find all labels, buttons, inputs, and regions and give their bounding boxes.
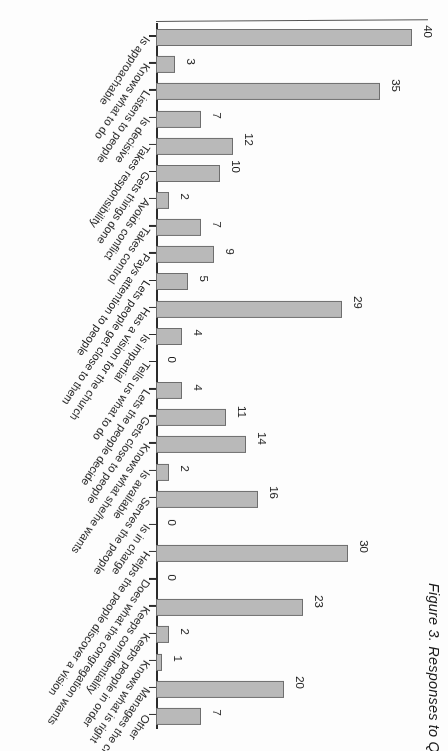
bar [156,626,169,643]
bar-value-label: 0 [166,337,178,363]
axis-tick [149,605,156,606]
bar-value-label: 35 [390,66,402,92]
bar [156,138,233,155]
axis-tick [149,470,156,471]
bar-row: 1Knows what is right [156,648,418,675]
bar [156,219,201,236]
axis-tick [149,144,156,145]
axis-tick [149,415,156,416]
figure-caption: Figure 3. Responses to Question 11. [426,583,442,751]
bar-value-label: 7 [211,690,223,716]
bar-value-label: 10 [230,147,242,173]
bar-value-label: 30 [358,528,370,554]
bar-row: 2Keeps people in order [156,620,418,647]
bar-value-label: 1 [172,636,184,662]
axis-tick [149,442,156,443]
bar-value-label: 0 [166,500,178,526]
bar-value-label: 12 [243,120,255,146]
bar-row: 2Is available [156,457,418,484]
axis-tick [149,714,156,715]
bar-value-label: 23 [313,582,325,608]
axis-tick [149,89,156,90]
axis-tick [149,578,156,579]
bar-value-label: 0 [166,555,178,581]
bar-value-label: 20 [294,663,306,689]
axis-tick [149,171,156,172]
axis-tick [149,280,156,281]
axis-tick [149,551,156,552]
bar-value-label: 2 [179,446,191,472]
bar-row: 7Is decisive [156,104,418,131]
bar-row: 7Other [156,702,418,729]
axis-tick [149,198,156,199]
bar-row: 12Takes responsibility [156,132,418,159]
axis-tick [149,660,156,661]
axis-tick [149,388,156,389]
axis-tick [149,62,156,63]
bar [156,409,226,426]
bar [156,111,201,128]
axis-tick [149,524,156,525]
bar [156,464,169,481]
bar-value-label: 9 [224,229,236,255]
bar-row: 20Manages the church effectively [156,675,418,702]
bar [156,382,182,399]
bar-value-label: 40 [422,12,434,38]
bar-row: 3Knows what to do [156,50,418,77]
bar-value-label: 2 [179,609,191,635]
bar-row: 23Keeps confidentiality [156,593,418,620]
bar-value-label: 16 [268,473,280,499]
bar [156,56,175,73]
bar [156,192,169,209]
bar [156,708,201,725]
axis-tick [149,334,156,335]
bar-row: 9Pays attention to people [156,240,418,267]
bar [156,83,380,100]
axis-tick [149,633,156,634]
axis-tick [149,307,156,308]
value-axis-baseline [156,19,428,22]
bar [156,436,246,453]
bar-row: 10Gets things done [156,159,418,186]
axis-tick [149,252,156,253]
bar [156,654,162,671]
rotated-figure-container: Figure 3. Responses to Question 11. 40Is… [0,0,448,751]
bar-chart-plot-area: 40Is approachable3Knows what to do35List… [156,23,418,729]
bar-value-label: 5 [198,256,210,282]
bar [156,545,348,562]
bar-row: 2Avoids conflict [156,186,418,213]
bar-value-label: 7 [211,202,223,228]
axis-tick [149,687,156,688]
axis-tick [149,225,156,226]
bar-row: 5Lets people get close to them [156,267,418,294]
axis-tick [149,361,156,362]
axis-tick [149,35,156,36]
bar [156,273,188,290]
bar [156,301,342,318]
bar-value-label: 2 [179,175,191,201]
bar-row: 0Does what the congregation wants [156,566,418,593]
bar-value-label: 29 [352,283,364,309]
bar-row: 16Serves the people [156,485,418,512]
bar-row: 4Is impartial [156,322,418,349]
bar-value-label: 11 [236,392,248,418]
bar-value-label: 3 [185,39,197,65]
bar-value-label: 14 [256,419,268,445]
axis-tick [149,117,156,118]
bar-row: 35Listens to people [156,77,418,104]
bar-row: 11Gets close to people [156,403,418,430]
bar-row: 30Helps the people discover a vision [156,539,418,566]
bar-row: 4Lets the people decide [156,376,418,403]
bar-row: 7Takes control [156,213,418,240]
bar-row: 0Is in charge [156,512,418,539]
bar-value-label: 7 [211,93,223,119]
bar-value-label: 4 [192,310,204,336]
bar-value-label: 4 [192,365,204,391]
axis-tick [149,497,156,498]
bar-row: 14Knows what she/he wants [156,430,418,457]
figure-page: Figure 3. Responses to Question 11. 40Is… [0,0,448,751]
